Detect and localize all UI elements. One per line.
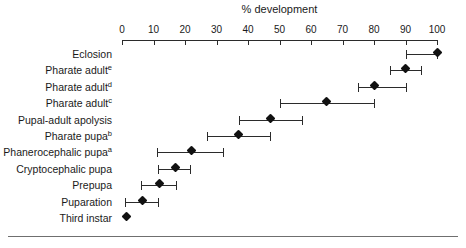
row-label: Third instar [0, 210, 112, 226]
x-tick-label: 70 [337, 24, 348, 35]
row-label: Pharate adultc [0, 95, 112, 111]
data-point-marker [322, 97, 332, 107]
error-bar-line [406, 54, 438, 55]
axis-title: % development [122, 3, 437, 16]
x-tick [343, 40, 344, 45]
row-label: Pharate adulte [0, 62, 112, 78]
x-tick-label: 90 [400, 24, 411, 35]
chart-row: Eclosion [0, 46, 466, 62]
chart-row: Cryptocephalic pupa [0, 161, 466, 177]
row-label: Prepupa [0, 177, 112, 193]
chart-row: Puparation [0, 194, 466, 210]
x-tick [280, 40, 281, 45]
data-point-marker [155, 179, 165, 189]
chart-row: Pharate adultc [0, 95, 466, 111]
x-tick [185, 40, 186, 45]
error-bar-cap [158, 198, 159, 207]
development-stage-chart: % development 0102030405060708090100 Ecl… [0, 0, 466, 248]
chart-row: Third instar [0, 210, 466, 226]
x-tick [406, 40, 407, 45]
error-bar-cap [176, 181, 177, 190]
x-tick [437, 40, 438, 45]
chart-row: Pharate adulte [0, 62, 466, 78]
x-tick-label: 40 [242, 24, 253, 35]
data-point-marker [265, 113, 275, 123]
data-point-marker [369, 80, 379, 90]
x-tick-label: 30 [211, 24, 222, 35]
error-bar-cap [358, 83, 359, 92]
error-bar-cap [374, 99, 375, 108]
x-tick [248, 40, 249, 45]
error-bar-line [358, 87, 405, 88]
chart-row: Prepupa [0, 177, 466, 193]
error-bar-cap [158, 165, 159, 174]
row-label-superscript: a [108, 145, 112, 154]
row-label: Eclosion [0, 46, 112, 62]
chart-row: Pharate adultd [0, 79, 466, 95]
data-point-marker [122, 212, 132, 222]
data-point-marker [171, 162, 181, 172]
error-bar-cap [406, 50, 407, 59]
error-bar-cap [390, 66, 391, 75]
data-point-marker [186, 146, 196, 156]
data-point-marker [401, 64, 411, 74]
data-point-marker [138, 195, 148, 205]
row-label: Cryptocephalic pupa [0, 161, 112, 177]
x-tick-label: 60 [305, 24, 316, 35]
chart-row: Pupal-adult apolysis [0, 112, 466, 128]
bottom-divider [8, 236, 458, 237]
error-bar-cap [157, 148, 158, 157]
chart-row: Phanerocephalic pupaa [0, 144, 466, 160]
x-tick [122, 40, 123, 45]
error-bar-cap [207, 132, 208, 141]
data-point-marker [432, 48, 442, 58]
row-label-superscript: c [108, 96, 112, 105]
error-bar-cap [125, 198, 126, 207]
row-label: Pharate adultd [0, 79, 112, 95]
row-label: Pharate pupab [0, 128, 112, 144]
x-tick [217, 40, 218, 45]
error-bar-cap [141, 181, 142, 190]
x-tick [311, 40, 312, 45]
x-tick-label: 100 [429, 24, 446, 35]
x-tick [154, 40, 155, 45]
row-label-superscript: d [108, 79, 112, 88]
error-bar-cap [280, 99, 281, 108]
error-bar-cap [421, 66, 422, 75]
error-bar-cap [223, 148, 224, 157]
x-tick-label: 80 [368, 24, 379, 35]
row-label-superscript: b [108, 129, 112, 138]
row-label: Pupal-adult apolysis [0, 112, 112, 128]
row-label: Puparation [0, 194, 112, 210]
x-tick-label: 10 [148, 24, 159, 35]
x-tick-label: 0 [119, 24, 125, 35]
error-bar-cap [302, 116, 303, 125]
error-bar-cap [190, 165, 191, 174]
error-bar-cap [239, 116, 240, 125]
data-point-marker [234, 130, 244, 140]
x-tick-label: 20 [179, 24, 190, 35]
row-label: Phanerocephalic pupaa [0, 144, 112, 160]
chart-row: Pharate pupab [0, 128, 466, 144]
error-bar-cap [270, 132, 271, 141]
x-tick-label: 50 [274, 24, 285, 35]
row-label-superscript: e [108, 63, 112, 72]
x-tick [374, 40, 375, 45]
error-bar-cap [406, 83, 407, 92]
